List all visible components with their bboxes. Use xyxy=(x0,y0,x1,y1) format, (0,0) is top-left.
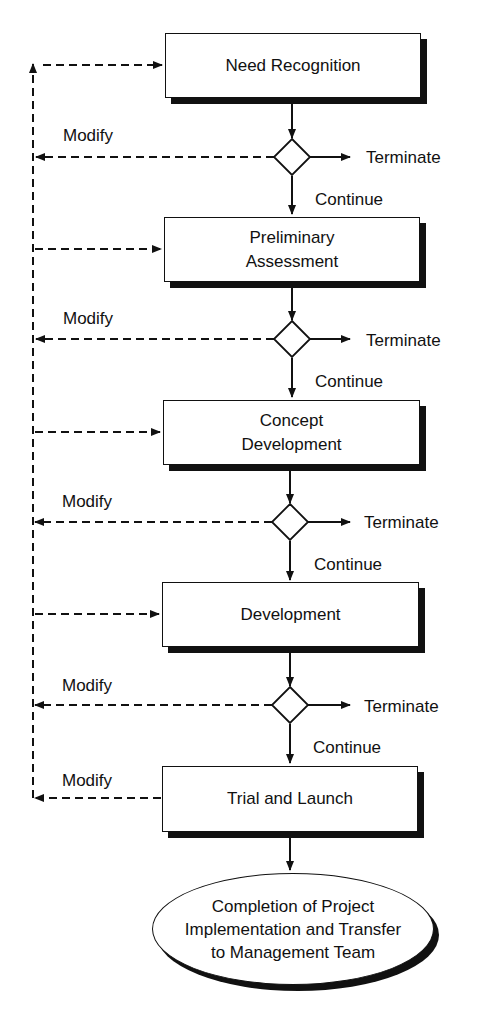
stage-label: Trial and Launch xyxy=(227,787,353,811)
modify-label-d1: Modify xyxy=(63,126,113,146)
stage-trial-and-launch: Trial and Launch xyxy=(162,766,418,832)
stage-label: Development xyxy=(240,603,340,627)
terminal-line: Completion of Project xyxy=(212,895,375,918)
modify-label-d3: Modify xyxy=(62,492,112,512)
terminal-line: to Management Team xyxy=(211,941,375,964)
continue-label-d1: Continue xyxy=(315,190,383,210)
stage-development: Development xyxy=(162,582,419,647)
decision-diamond-d4 xyxy=(272,687,308,723)
terminate-label-d3: Terminate xyxy=(364,513,439,533)
modify-label-s5: Modify xyxy=(62,771,112,791)
stage-preliminary-assessment: Preliminary Assessment xyxy=(164,217,420,282)
stage-need-recognition: Need Recognition xyxy=(165,33,421,98)
stage-label: Need Recognition xyxy=(225,54,360,78)
modify-label-d2: Modify xyxy=(63,309,113,329)
modify-label-d4: Modify xyxy=(62,676,112,696)
decision-diamond-d2 xyxy=(274,321,310,357)
stage-label-line: Concept xyxy=(260,409,323,433)
continue-label-d2: Continue xyxy=(315,372,383,392)
decision-diamond-d3 xyxy=(272,504,308,540)
continue-label-d3: Continue xyxy=(314,555,382,575)
terminate-label-d4: Terminate xyxy=(364,697,439,717)
continue-label-d4: Continue xyxy=(313,738,381,758)
stage-label-line: Assessment xyxy=(246,250,339,274)
terminate-label-d2: Terminate xyxy=(366,331,441,351)
decision-diamond-d1 xyxy=(274,139,310,175)
completion-terminal: Completion of Project Implementation and… xyxy=(152,873,434,985)
terminal-line: Implementation and Transfer xyxy=(185,918,401,941)
stage-concept-development: Concept Development xyxy=(163,400,420,465)
stage-label-line: Preliminary xyxy=(249,226,334,250)
terminate-label-d1: Terminate xyxy=(366,148,441,168)
stage-label-line: Development xyxy=(241,433,341,457)
